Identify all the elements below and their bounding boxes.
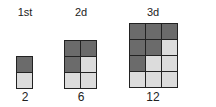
dark-cell [81,41,96,56]
dark-cell [146,24,161,39]
dark-cell [130,40,145,55]
dark-cell [146,40,161,55]
cell-grid [16,56,33,89]
cell-grid [129,23,178,88]
dark-cell [65,41,80,56]
light-cell [162,72,177,87]
figure-count: 2 [10,90,40,104]
light-cell [162,40,177,55]
light-cell [146,72,161,87]
light-cell [130,72,145,87]
cell-grid [64,40,97,89]
light-cell [162,56,177,71]
dark-cell [162,24,177,39]
light-cell [17,73,32,88]
light-cell [81,57,96,72]
dark-cell [130,56,145,71]
figure-count: 12 [138,90,168,104]
figure-label: 2d [66,6,96,18]
figure-label: 1st [10,6,40,18]
figure-count: 6 [66,90,96,104]
dark-cell [17,57,32,72]
light-cell [65,73,80,88]
light-cell [146,56,161,71]
light-cell [81,73,96,88]
figure-label: 3d [138,6,168,18]
dark-cell [130,24,145,39]
dark-cell [65,57,80,72]
